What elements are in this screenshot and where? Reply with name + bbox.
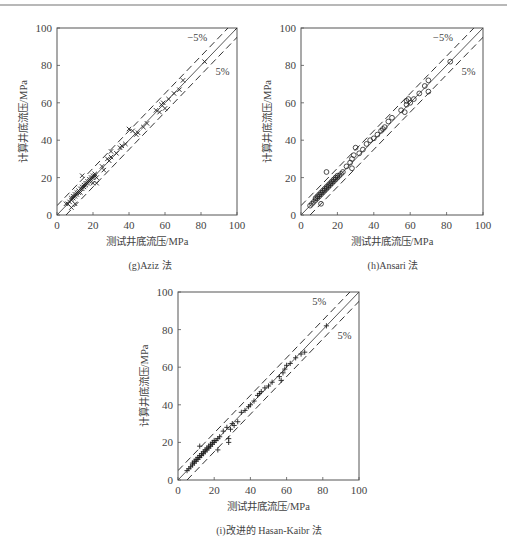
y-tick-label: 60 [41, 97, 53, 109]
y-tick-label: 80 [41, 59, 53, 71]
y-tick-label: 80 [285, 59, 297, 71]
scatter-panel-hasan-kaibr: 020406080100020406080100测试井底流压/MPa计算井底流压… [120, 280, 380, 520]
x-tick-label: 80 [317, 484, 329, 496]
y-tick-label: 40 [41, 134, 53, 146]
data-point [163, 106, 167, 110]
data-point [202, 59, 206, 63]
y-tick-label: 20 [162, 436, 174, 448]
scatter-plot-hasan-kaibr: 020406080100020406080100测试井底流压/MPa计算井底流压… [120, 280, 380, 520]
y-tick-label: 80 [162, 324, 174, 336]
data-point [390, 115, 395, 120]
scatter-plot-ansari: 020406080100020406080100测试井底流压/MPa计算井底流压… [250, 15, 507, 255]
x-tick-label: 0 [298, 219, 304, 231]
x-tick-label: 0 [175, 484, 181, 496]
upper-bound-annotation: −5% [433, 32, 453, 43]
data-point [80, 174, 84, 178]
data-point [221, 429, 226, 434]
y-tick-label: 60 [285, 97, 297, 109]
y-tick-label: 100 [280, 22, 297, 34]
x-tick-label: 0 [54, 219, 60, 231]
y-tick-label: 0 [291, 209, 297, 221]
caption-hasan-kaibr: (i)改进的 Hasan-Kaibr 法 [178, 522, 360, 537]
y-tick-label: 100 [36, 22, 53, 34]
lower-bound-annotation: 5% [461, 66, 475, 77]
x-tick-label: 80 [441, 219, 453, 231]
x-tick-label: 100 [351, 484, 368, 496]
lower-bound-line [310, 28, 492, 215]
data-point [166, 97, 170, 101]
data-point [215, 447, 220, 452]
x-tick-label: 60 [160, 219, 172, 231]
y-tick-label: 20 [285, 172, 297, 184]
x-tick-label: 20 [209, 484, 221, 496]
x-tick-label: 100 [475, 219, 492, 231]
x-axis-label: 测试井底流压/MPa [351, 235, 434, 247]
x-tick-label: 40 [245, 484, 257, 496]
y-axis-label: 计算井底流压/MPa [17, 80, 29, 163]
y-tick-label: 0 [168, 474, 174, 486]
caption-aziz: (g)Aziz 法 [60, 257, 240, 272]
x-tick-label: 100 [229, 219, 246, 231]
data-point [181, 78, 185, 82]
top-rule [0, 4, 507, 6]
x-axis-label: 测试井底流压/MPa [227, 500, 310, 512]
data-point [386, 119, 391, 124]
x-tick-label: 60 [405, 219, 417, 231]
data-point [226, 440, 231, 445]
x-axis-label: 测试井底流压/MPa [106, 235, 189, 247]
y-tick-label: 100 [157, 286, 174, 298]
data-point [197, 444, 202, 449]
x-tick-label: 40 [368, 219, 380, 231]
lower-bound-annotation: 5% [338, 330, 352, 341]
y-axis-label: 计算井底流压/MPa [138, 344, 150, 427]
caption-ansari: (h)Ansari 法 [303, 257, 483, 272]
upper-bound-annotation: −5% [187, 32, 207, 43]
lower-bound-annotation: 5% [216, 66, 230, 77]
data-point [350, 166, 355, 171]
upper-bound-line [301, 19, 483, 206]
x-tick-label: 20 [332, 219, 344, 231]
x-tick-label: 60 [281, 484, 293, 496]
x-tick-label: 40 [124, 219, 136, 231]
data-point [94, 181, 98, 185]
x-tick-label: 20 [88, 219, 100, 231]
y-tick-label: 40 [285, 134, 297, 146]
lower-bound-line [66, 28, 246, 215]
x-tick-label: 80 [196, 219, 208, 231]
data-point [324, 170, 329, 175]
y-tick-label: 20 [41, 172, 53, 184]
lower-bound-line [187, 292, 368, 480]
y-axis-label: 计算井底流压/MPa [261, 80, 273, 163]
data-point [172, 91, 176, 95]
data-point [426, 78, 431, 83]
data-point [114, 151, 118, 155]
upper-bound-line [178, 283, 359, 471]
scatter-panel-ansari: 020406080100020406080100测试井底流压/MPa计算井底流压… [250, 15, 507, 255]
y-tick-label: 60 [162, 361, 174, 373]
y-tick-label: 40 [162, 399, 174, 411]
y-tick-label: 0 [47, 209, 53, 221]
scatter-panel-aziz: 020406080100020406080100测试井底流压/MPa计算井底流压… [0, 15, 250, 255]
scatter-plot-aziz: 020406080100020406080100测试井底流压/MPa计算井底流压… [0, 15, 250, 255]
upper-bound-annotation: 5% [312, 296, 326, 307]
data-point [364, 142, 369, 147]
